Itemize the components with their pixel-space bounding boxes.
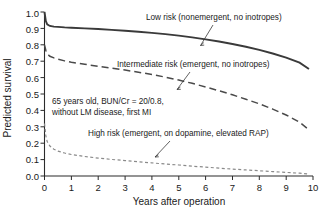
y-tick-label: 0.4 <box>26 105 39 116</box>
x-tick-label: 5 <box>176 182 181 193</box>
x-tick-labels: 0 1 2 3 4 5 6 7 8 9 10 <box>42 182 318 193</box>
x-axis-title: Years after operation <box>133 196 225 207</box>
x-tick-label: 8 <box>257 182 262 193</box>
predicted-survival-chart: Predicted survival 1.0 0.9 0.8 0.7 0.6 0… <box>0 0 324 210</box>
y-tick-label: 0.1 <box>26 154 39 165</box>
y-tick-label: 0.7 <box>26 56 39 67</box>
x-tick-label: 10 <box>308 182 319 193</box>
y-tick-label: 0.2 <box>26 138 39 149</box>
y-tick-label: 0.9 <box>26 24 39 35</box>
plot-area: Predicted survival 1.0 0.9 0.8 0.7 0.6 0… <box>0 0 324 210</box>
annotation-intermediate-risk: Intermediate risk (emergent, no inotrope… <box>117 60 270 69</box>
y-axis-title: Predicted survival <box>2 59 13 138</box>
y-tick-label: 0.8 <box>26 40 39 51</box>
y-tick-labels: 1.0 0.9 0.8 0.7 0.6 0.5 0.4 0.3 0.2 0.1 … <box>26 8 39 182</box>
y-tick-marks <box>41 12 45 176</box>
annotation-patient-profile-line-1: 65 years old, BUN/Cr = 20/0.8, <box>52 97 164 106</box>
x-tick-label: 2 <box>96 182 101 193</box>
x-tick-marks <box>45 176 314 180</box>
y-tick-label: 0.6 <box>26 73 39 84</box>
x-tick-label: 7 <box>230 182 235 193</box>
x-tick-label: 4 <box>149 182 154 193</box>
leader-line-low-risk <box>201 25 214 46</box>
x-tick-label: 1 <box>69 182 74 193</box>
series-line-intermediate-risk <box>45 45 309 130</box>
x-tick-label: 0 <box>42 182 47 193</box>
x-tick-label: 9 <box>284 182 289 193</box>
y-tick-label: 0.0 <box>26 171 39 182</box>
y-tick-label: 0.5 <box>26 89 39 100</box>
x-tick-label: 3 <box>122 182 127 193</box>
y-tick-label: 0.3 <box>26 122 39 133</box>
x-tick-label: 6 <box>203 182 208 193</box>
annotation-low-risk: Low risk (nonemergent, no inotropes) <box>146 13 282 22</box>
annotation-patient-profile-line-2: without LM disease, first MI <box>51 108 151 117</box>
leader-line-high-risk <box>155 141 170 157</box>
y-tick-label: 1.0 <box>26 8 39 19</box>
annotation-high-risk: High risk (emergent, on dopamine, elevat… <box>88 129 269 138</box>
